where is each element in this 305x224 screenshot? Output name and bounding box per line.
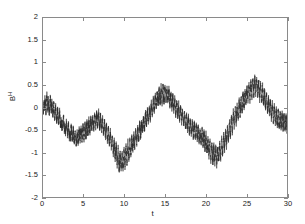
y-tick-label: 1 — [34, 58, 38, 66]
x-tick-mark — [165, 194, 166, 198]
x-tick-label: 15 — [161, 200, 169, 208]
y-tick-mark — [42, 175, 46, 176]
y-tick-mark-right — [284, 130, 288, 131]
series-line-fractional-brownian-motion — [43, 75, 287, 173]
y-tick-mark-right — [284, 108, 288, 109]
plot-area — [42, 17, 288, 198]
x-tick-mark — [206, 194, 207, 198]
y-tick-mark-right — [284, 85, 288, 86]
y-axis-title: BH — [8, 92, 17, 102]
y-tick-mark-right — [284, 62, 288, 63]
y-tick-mark — [42, 40, 46, 41]
y-axis-title-exponent: H — [7, 92, 13, 96]
y-tick-mark — [42, 108, 46, 109]
x-axis-title: t — [0, 209, 305, 218]
y-tick-mark — [42, 153, 46, 154]
y-tick-mark — [42, 130, 46, 131]
x-tick-mark-top — [165, 17, 166, 21]
y-tick-mark-right — [284, 153, 288, 154]
y-axis-title-base: B — [8, 96, 17, 101]
x-tick-mark-top — [288, 17, 289, 21]
data-trace-svg — [43, 18, 287, 197]
figure-canvas: BH t -2-1.5-1-0.500.511.52051015202530 — [0, 0, 305, 224]
y-tick-label: -2 — [31, 194, 38, 202]
x-tick-label: 10 — [120, 200, 128, 208]
y-tick-mark — [42, 85, 46, 86]
y-tick-label: 1.5 — [28, 36, 38, 44]
x-tick-mark-top — [42, 17, 43, 21]
x-tick-mark-top — [83, 17, 84, 21]
x-tick-mark-top — [124, 17, 125, 21]
x-tick-mark-top — [247, 17, 248, 21]
x-tick-mark — [42, 194, 43, 198]
x-tick-label: 20 — [202, 200, 210, 208]
y-tick-mark — [42, 62, 46, 63]
x-tick-mark — [83, 194, 84, 198]
y-tick-mark-right — [284, 175, 288, 176]
x-tick-label: 0 — [40, 200, 44, 208]
y-tick-label: -1 — [31, 149, 38, 157]
y-tick-label: -1.5 — [25, 171, 38, 179]
x-tick-label: 5 — [81, 200, 85, 208]
y-tick-mark-right — [284, 40, 288, 41]
y-tick-label: 0.5 — [28, 81, 38, 89]
y-tick-label: 0 — [34, 104, 38, 112]
x-tick-label: 25 — [243, 200, 251, 208]
x-tick-mark — [288, 194, 289, 198]
x-tick-label: 30 — [284, 200, 292, 208]
x-tick-mark — [124, 194, 125, 198]
y-tick-label: 2 — [34, 13, 38, 21]
y-tick-label: -0.5 — [25, 126, 38, 134]
x-tick-mark-top — [206, 17, 207, 21]
x-tick-mark — [247, 194, 248, 198]
